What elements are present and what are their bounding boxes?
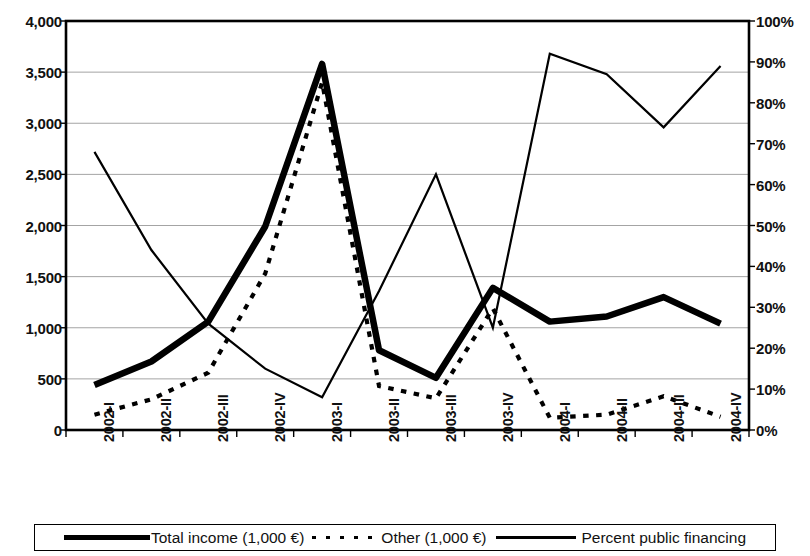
series-line-1 (94, 64, 720, 385)
x-category-label: 2003-IV (500, 393, 516, 442)
y-right-tick-label: 50% (756, 217, 785, 234)
x-category-label: 2004-II (614, 398, 630, 442)
thick-solid-line-icon (64, 532, 150, 544)
y-right-tick-label: 90% (756, 53, 785, 70)
x-category-label: 2003-III (443, 394, 459, 442)
y-left-tick-label: 0 (54, 422, 62, 439)
y-left-tick-label: 1,000 (25, 319, 62, 336)
thin-solid-line-icon (492, 532, 580, 544)
y-left-tick-label: 3,500 (25, 64, 62, 81)
x-category-label: 2004-IV (728, 393, 744, 442)
y-right-tick-label: 60% (756, 176, 785, 193)
y-left-tick-label: 1,500 (25, 268, 62, 285)
y-right-tick-label: 20% (756, 340, 785, 357)
y-right-tick-label: 100% (756, 13, 794, 30)
y-left-tick-label: 2,000 (25, 217, 62, 234)
y-left-tick-label: 500 (38, 370, 62, 387)
y-right-tick-label: 80% (756, 94, 785, 111)
x-category-label: 2004-I (557, 402, 573, 442)
y-left-tick-label: 4,000 (25, 13, 62, 30)
series-layer (94, 54, 720, 418)
legend-item-other: Other (1,000 €) (310, 529, 486, 547)
y-right-tick-label: 70% (756, 135, 785, 152)
chart-legend: Total income (1,000 €) Other (1,000 €) P… (34, 524, 776, 551)
x-category-label: 2003-II (386, 398, 402, 442)
y-left-tick-label: 3,000 (25, 115, 62, 132)
x-category-label: 2002-II (158, 398, 174, 442)
x-category-label: 2004-III (671, 394, 687, 442)
legend-label-total-income: Total income (1,000 €) (150, 529, 304, 547)
x-category-label: 2002-III (215, 394, 231, 442)
y-right-tick-label: 0% (756, 422, 777, 439)
chart-plot-area (0, 0, 810, 556)
x-category-label: 2002-I (101, 402, 117, 442)
y-right-tick-label: 40% (756, 258, 785, 275)
chart-container: 05001,0001,5002,0002,5003,0003,5004,000 … (0, 0, 810, 556)
y-right-tick-label: 30% (756, 299, 785, 316)
x-category-label: 2002-IV (272, 393, 288, 442)
gridlines (66, 72, 749, 379)
legend-label-percent-public-financing: Percent public financing (580, 529, 746, 547)
legend-item-percent-public-financing: Percent public financing (492, 529, 746, 547)
legend-item-total-income: Total income (1,000 €) (64, 529, 304, 547)
dotted-line-icon (310, 532, 380, 544)
legend-label-other: Other (1,000 €) (380, 529, 486, 547)
y-left-tick-label: 2,500 (25, 166, 62, 183)
y-right-tick-label: 10% (756, 381, 785, 398)
x-category-label: 2003-I (329, 402, 345, 442)
